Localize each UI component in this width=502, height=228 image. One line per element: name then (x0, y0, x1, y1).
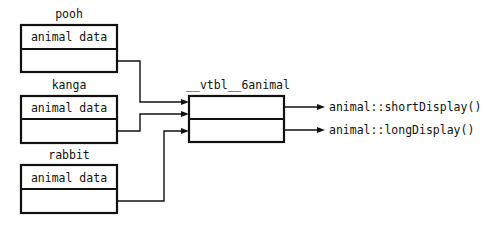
arrowhead-icon (181, 99, 189, 105)
object-label-rabbit: rabbit (48, 148, 90, 162)
function-long-display: animal::longDisplay() (329, 123, 474, 137)
arrowhead-icon (317, 104, 325, 110)
object-field-pooh: animal data (31, 30, 107, 44)
pooh-vptr-wire (117, 61, 183, 102)
function-short-display: animal::shortDisplay() (329, 100, 481, 114)
vtable-label: __vtbl__6animal (186, 78, 290, 92)
vptr-connectors (117, 61, 189, 201)
vtable-diagram: pooh animal data kanga animal data rabbi… (0, 0, 502, 228)
arrowhead-icon (181, 111, 189, 117)
object-field-rabbit: animal data (31, 171, 107, 185)
kanga-vptr-wire (117, 114, 183, 131)
arrowhead-icon (317, 127, 325, 133)
object-field-kanga: animal data (31, 101, 107, 115)
object-label-kanga: kanga (52, 78, 87, 92)
object-kanga: kanga animal data (21, 78, 117, 143)
arrowhead-icon (181, 128, 189, 134)
rabbit-vptr-wire (117, 131, 183, 201)
vtable-entry-connectors: animal::shortDisplay() animal::longDispl… (284, 100, 481, 137)
object-label-pooh: pooh (55, 7, 83, 21)
object-pooh: pooh animal data (21, 7, 117, 72)
object-rabbit: rabbit animal data (21, 148, 117, 213)
vtable: __vtbl__6animal (186, 78, 290, 142)
